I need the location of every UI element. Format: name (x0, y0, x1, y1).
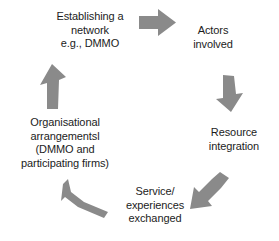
arrow-right-icon (138, 8, 178, 38)
node-actors-involved: Actors involved (168, 24, 258, 51)
cyclical-process-diagram: Establishing a network e.g., DMMO Actors… (0, 0, 279, 241)
node-resource-integration: Resource integration (191, 126, 277, 153)
node-establishing-network: Establishing a network e.g., DMMO (36, 10, 144, 51)
arrow-down-icon (214, 74, 244, 114)
arrow-up-icon (36, 63, 70, 111)
node-organisational-arrangements: Organisational arrangementsl (DMMO and p… (1, 116, 129, 170)
arrow-up-left-icon (62, 176, 110, 216)
arrow-down-left-icon (187, 176, 231, 216)
